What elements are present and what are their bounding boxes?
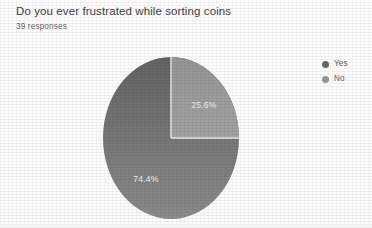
response-count-label: 39 responses: [16, 21, 67, 32]
legend-dot-no-icon: [322, 76, 329, 83]
legend-item-no[interactable]: No: [322, 72, 368, 87]
slice-label-no: 25.6%: [191, 100, 217, 110]
pie-slice-no[interactable]: [171, 57, 239, 138]
slice-label-yes: 74.4%: [133, 174, 159, 184]
chart-legend: Yes No: [322, 57, 368, 87]
page-bottom-edge: [0, 226, 372, 228]
pie-chart-svg: 25.6% 74.4%: [100, 54, 244, 222]
page-title: Do you ever frustrated while sorting coi…: [16, 4, 231, 19]
legend-item-yes[interactable]: Yes: [322, 57, 368, 72]
pie-chart: 25.6% 74.4%: [100, 54, 244, 222]
survey-chart-screenshot: Do you ever frustrated while sorting coi…: [0, 0, 372, 228]
legend-dot-yes-icon: [322, 61, 329, 68]
legend-label-yes: Yes: [334, 60, 348, 68]
legend-label-no: No: [334, 75, 345, 83]
